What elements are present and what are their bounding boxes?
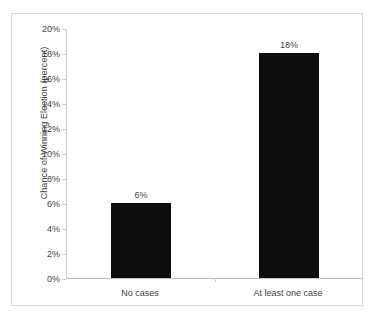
y-axis-tick-label: 16% — [26, 75, 60, 84]
y-axis-tick-label: 8% — [26, 175, 60, 184]
bar-value-label: 18% — [259, 40, 319, 51]
chart-container: Chance of Winning Election (percent) 0%2… — [0, 0, 380, 317]
y-axis-tick-label: 0% — [26, 275, 60, 284]
y-axis-tick-label: 18% — [26, 50, 60, 59]
y-axis-tick-mark — [62, 279, 66, 280]
y-axis-tick-label: 14% — [26, 100, 60, 109]
x-axis-tick-label: At least one case — [214, 288, 362, 298]
bars-layer: 6%18% — [67, 29, 362, 278]
y-axis-tick-label: 20% — [26, 25, 60, 34]
chart-frame: Chance of Winning Election (percent) 0%2… — [11, 13, 363, 306]
x-axis-tick-mark — [215, 278, 216, 282]
bar[interactable] — [259, 53, 319, 278]
bar-value-label: 6% — [111, 190, 171, 201]
y-axis-tick-label: 12% — [26, 125, 60, 134]
y-axis-tick-labels: 0%2%4%6%8%10%12%14%16%18%20% — [26, 29, 60, 279]
y-axis-tick-label: 10% — [26, 150, 60, 159]
y-axis-tick-label: 2% — [26, 250, 60, 259]
x-axis-tick-labels: No casesAt least one case — [66, 288, 362, 308]
y-axis-tick-label: 4% — [26, 225, 60, 234]
plot-area: 6%18% — [66, 29, 362, 279]
y-axis-tick-label: 6% — [26, 200, 60, 209]
x-axis-tick-label: No cases — [66, 288, 214, 298]
bar[interactable] — [111, 203, 171, 278]
